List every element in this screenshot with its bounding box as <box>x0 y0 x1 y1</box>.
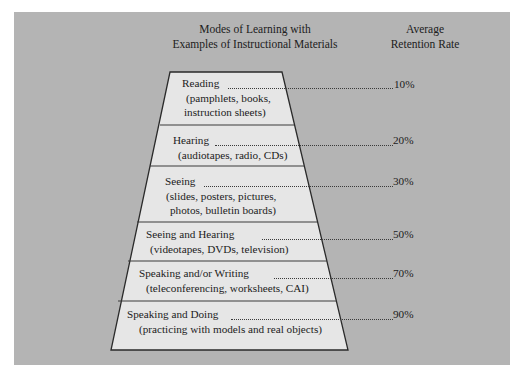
level-seeing-hearing-mode: Seeing and Hearing <box>146 227 234 242</box>
leader-dots-seeing <box>204 186 393 187</box>
rate-seeing-hearing: 50% <box>393 227 414 242</box>
rate-reading: 10% <box>394 77 415 92</box>
leader-dots-speaking-doing <box>231 319 393 320</box>
level-hearing-examples-1: (audiotapes, radio, CDs) <box>178 148 287 163</box>
leader-dots-hearing <box>215 145 393 146</box>
rate-hearing: 20% <box>393 133 414 148</box>
level-speaking-writing-examples-1: (teleconferencing, worksheets, CAI) <box>146 281 309 296</box>
level-seeing-examples-1: (slides, posters, pictures, <box>166 189 276 204</box>
level-seeing-hearing-examples-1: (videotapes, DVDs, television) <box>150 242 289 257</box>
level-speaking-writing-mode: Speaking and/or Writing <box>139 266 249 281</box>
level-speaking-doing-mode: Speaking and Doing <box>127 307 218 322</box>
level-hearing-mode: Hearing <box>173 133 209 148</box>
level-seeing-mode: Seeing <box>165 174 195 189</box>
rate-speaking-writing: 70% <box>393 266 414 281</box>
level-reading-examples-1: (pamphlets, books, <box>186 91 271 106</box>
leader-dots-reading <box>228 88 393 89</box>
leader-dots-seeing-hearing <box>262 239 393 240</box>
level-speaking-doing-examples-1: (practicing with models and real objects… <box>139 322 322 337</box>
rate-seeing: 30% <box>393 174 414 189</box>
level-reading-examples-2: instruction sheets) <box>184 105 266 120</box>
rate-speaking-doing: 90% <box>393 307 414 322</box>
level-reading-mode: Reading <box>182 76 219 91</box>
leader-dots-speaking-writing <box>274 278 393 279</box>
level-seeing-examples-2: photos, bulletin boards) <box>170 203 276 218</box>
